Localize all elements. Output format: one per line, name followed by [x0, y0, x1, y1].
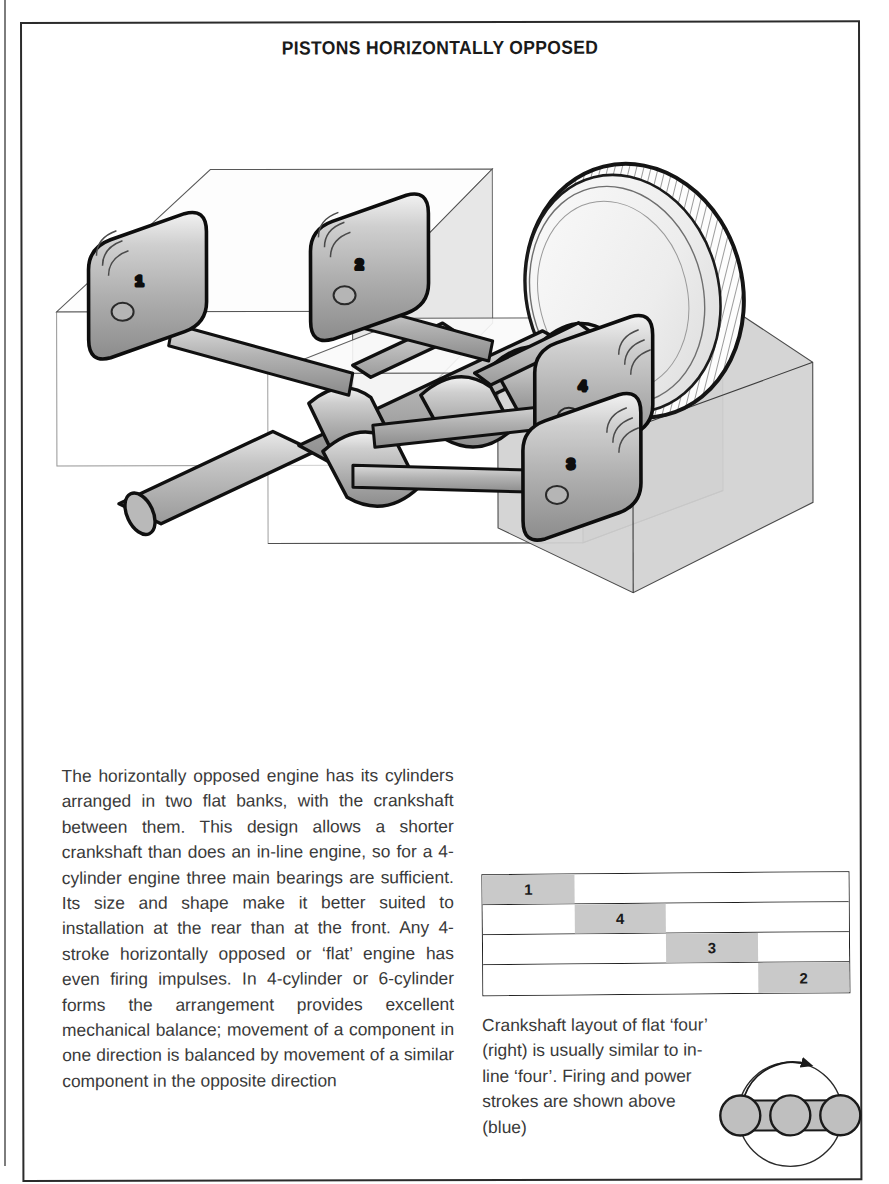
table-row: 3 [483, 932, 849, 965]
firing-block-4: 4 [574, 904, 666, 934]
piston-label-4: 4 [579, 378, 587, 394]
chart-caption: Crankshaft layout of flat ‘four’ (right)… [482, 1013, 722, 1141]
lower-content: The horizontally opposed engine has its … [62, 762, 853, 1184]
figure-panel: PISTONS HORIZONTALLY OPPOSED [20, 20, 862, 1182]
table-row: 2 [483, 962, 849, 995]
firing-block-1: 1 [482, 874, 574, 904]
page-gutter-rule [4, 0, 6, 1166]
firing-block-3: 3 [666, 933, 758, 963]
body-copy: The horizontally opposed engine has its … [62, 763, 455, 1094]
piston-label-3: 3 [567, 456, 575, 472]
table-row: 1 [482, 872, 848, 905]
piston-label-2: 2 [355, 256, 363, 272]
firing-block-2: 2 [758, 962, 850, 993]
engine-illustration: 1 2 [22, 72, 859, 644]
piston-label-1: 1 [136, 273, 144, 289]
firing-order-chart: 1 4 3 2 [481, 871, 850, 996]
table-row: 4 [483, 902, 849, 935]
body-paragraph: The horizontally opposed engine has its … [62, 763, 455, 1094]
crank-journal-1 [720, 1095, 760, 1135]
page-title: PISTONS HORIZONTALLY OPPOSED [55, 36, 824, 60]
caption-text: Crankshaft layout of flat ‘four’ (right)… [482, 1013, 722, 1141]
rotation-arrow-icon [744, 1062, 808, 1096]
crank-journal-3 [820, 1095, 860, 1135]
crank-journal-2 [770, 1095, 810, 1135]
crankshaft-schematic [700, 1052, 880, 1177]
